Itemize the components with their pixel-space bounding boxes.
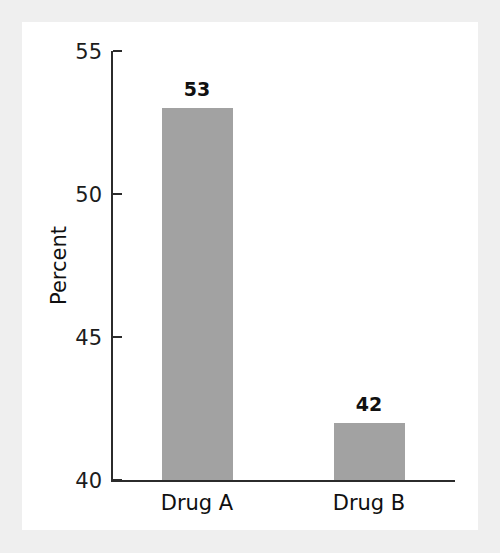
y-axis-line — [111, 51, 113, 482]
x-axis-line — [111, 480, 455, 482]
y-tick-mark — [113, 479, 122, 481]
y-tick-label-text: 45 — [75, 326, 102, 350]
y-tick-mark — [113, 193, 122, 195]
bar-value-label: 53 — [157, 78, 237, 100]
y-tick-mark — [113, 336, 122, 338]
y-tick-label-text: 50 — [75, 183, 102, 207]
y-tick-label-text: 40 — [75, 469, 102, 493]
bar — [162, 108, 233, 480]
y-tick-mark — [113, 50, 122, 52]
plot-panel — [22, 22, 478, 530]
category-label: Drug A — [117, 491, 277, 515]
y-tick-label-text: 55 — [75, 40, 102, 64]
category-label: Drug B — [289, 491, 449, 515]
y-axis-title: Percent — [47, 275, 71, 305]
bar — [334, 423, 405, 480]
chart-figure: Percent 40455055 5342 Drug ADrug B — [0, 0, 500, 553]
bar-value-label: 42 — [329, 393, 409, 415]
